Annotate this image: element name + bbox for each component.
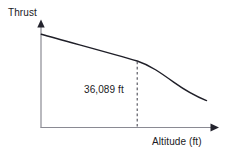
chart-plot-area — [0, 0, 233, 152]
arrow-right-icon — [211, 124, 220, 132]
arrow-up-icon — [37, 20, 44, 28]
tropopause-annotation-label: 36,089 ft — [84, 84, 124, 96]
x-axis-title: Altitude (ft) — [152, 136, 202, 148]
y-axis-title: Thrust — [8, 7, 37, 19]
thrust-altitude-chart: Thrust Altitude (ft) 36,089 ft — [0, 0, 233, 152]
